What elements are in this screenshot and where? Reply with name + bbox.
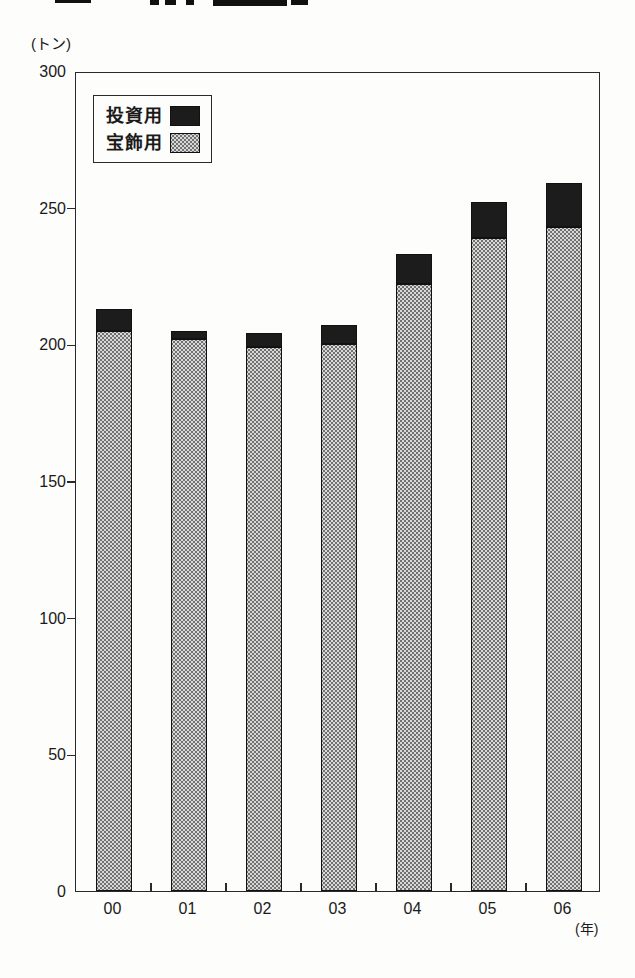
clipped-title-fragment bbox=[55, 0, 91, 3]
y-axis-tick-label: 300 bbox=[18, 64, 66, 80]
x-axis-category-label: 00 bbox=[75, 901, 150, 917]
bar-segment-投資用-05 bbox=[471, 202, 507, 238]
x-axis-tick-mark bbox=[300, 883, 302, 891]
y-axis-tick-label: 150 bbox=[18, 474, 66, 490]
clipped-title-fragment bbox=[213, 0, 287, 6]
x-axis-tick-mark bbox=[225, 883, 227, 891]
clipped-title-fragment bbox=[291, 0, 308, 5]
legend-item-label: 宝飾用 bbox=[106, 134, 163, 152]
legend-item: 宝飾用 bbox=[106, 133, 211, 153]
y-axis-tick-mark bbox=[67, 208, 75, 210]
legend-swatch-dark bbox=[170, 106, 200, 126]
bar-segment-投資用-03 bbox=[321, 325, 357, 344]
y-axis-unit-label: (トン) bbox=[31, 36, 71, 51]
y-axis-tick-mark bbox=[67, 345, 75, 347]
bar-segment-投資用-06 bbox=[546, 183, 582, 227]
legend-item: 投資用 bbox=[106, 106, 211, 126]
x-axis-tick-mark bbox=[525, 883, 527, 891]
x-axis-category-label: 04 bbox=[375, 901, 450, 917]
y-axis-tick-label: 0 bbox=[18, 884, 66, 900]
bar-segment-投資用-02 bbox=[246, 333, 282, 347]
clipped-title-fragment bbox=[150, 0, 159, 5]
legend-item-label: 投資用 bbox=[106, 107, 163, 125]
y-axis-tick-mark bbox=[67, 755, 75, 757]
x-axis-tick-mark bbox=[450, 883, 452, 891]
y-axis-tick-label: 50 bbox=[18, 747, 66, 763]
plot-area bbox=[75, 72, 600, 892]
x-axis-tick-mark bbox=[150, 883, 152, 891]
bar-segment-投資用-01 bbox=[171, 331, 207, 339]
clipped-title-fragment bbox=[186, 0, 194, 5]
bar-segment-宝飾用-02 bbox=[246, 347, 282, 891]
y-axis-tick-mark bbox=[67, 481, 75, 483]
bar-segment-宝飾用-06 bbox=[546, 227, 582, 891]
scanned-chart-page: (トン) 05010015020025030000010203040506 (年… bbox=[0, 0, 635, 978]
y-axis-tick-label: 100 bbox=[18, 611, 66, 627]
bar-segment-宝飾用-03 bbox=[321, 344, 357, 891]
x-axis-category-label: 01 bbox=[150, 901, 225, 917]
x-axis-category-label: 05 bbox=[450, 901, 525, 917]
clipped-title-fragment bbox=[165, 0, 176, 5]
bar-segment-宝飾用-04 bbox=[396, 284, 432, 891]
bar-segment-投資用-00 bbox=[96, 309, 132, 331]
legend-swatch-stipple bbox=[170, 133, 200, 153]
x-axis-tick-mark bbox=[375, 883, 377, 891]
y-axis-tick-label: 250 bbox=[18, 201, 66, 217]
x-axis-unit-label: (年) bbox=[575, 922, 598, 936]
bar-segment-宝飾用-00 bbox=[96, 331, 132, 891]
bar-segment-投資用-04 bbox=[396, 254, 432, 284]
y-axis-tick-mark bbox=[67, 618, 75, 620]
x-axis-category-label: 03 bbox=[300, 901, 375, 917]
bar-segment-宝飾用-01 bbox=[171, 339, 207, 891]
x-axis-category-label: 06 bbox=[525, 901, 600, 917]
legend-box: 投資用宝飾用 bbox=[93, 95, 212, 163]
y-axis-tick-label: 200 bbox=[18, 337, 66, 353]
bar-segment-宝飾用-05 bbox=[471, 238, 507, 891]
x-axis-category-label: 02 bbox=[225, 901, 300, 917]
